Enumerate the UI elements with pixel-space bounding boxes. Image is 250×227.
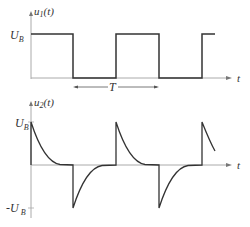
- bottom-y-axis-arrow-icon: [29, 101, 33, 106]
- bottom-ub-label: UB: [15, 116, 29, 132]
- bottom-t-label: t: [237, 159, 241, 171]
- top-ub-label: UB: [10, 28, 24, 44]
- square-wave: [31, 34, 215, 78]
- bottom-x-axis-arrow-icon: [226, 163, 232, 167]
- signal-diagram: u1(t) UB t T u2(t) UB -UB t: [0, 0, 250, 227]
- top-t-label: t: [237, 72, 241, 84]
- period-arrow-right-icon: [154, 86, 159, 89]
- bottom-plot: u2(t) UB -UB t: [6, 96, 241, 218]
- period-arrow-left-icon: [73, 86, 78, 89]
- top-plot: u1(t) UB t T: [10, 5, 241, 94]
- top-y-axis-arrow-icon: [29, 11, 33, 16]
- top-ylabel: u1(t): [34, 5, 54, 19]
- bottom-neg-ub-label: -UB: [6, 201, 26, 217]
- bottom-ylabel: u2(t): [34, 96, 54, 110]
- top-x-axis-arrow-icon: [226, 76, 232, 80]
